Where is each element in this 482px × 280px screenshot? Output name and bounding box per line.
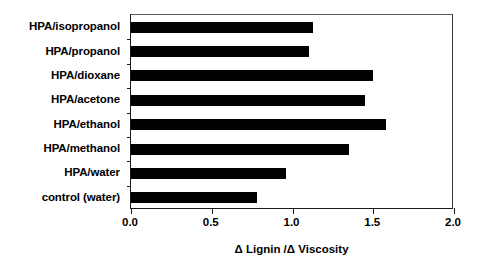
- bar: [131, 168, 286, 179]
- bar-slot: [131, 113, 454, 137]
- category-label: HPA/ethanol: [54, 118, 120, 130]
- y-axis-tick: [127, 88, 131, 89]
- bar: [131, 70, 373, 81]
- y-axis-tick: [127, 113, 131, 114]
- y-axis-tick: [127, 137, 131, 138]
- x-axis-tick-label: 0.5: [203, 216, 219, 228]
- bar-slot: [131, 161, 454, 185]
- category-label: HPA/dioxane: [51, 69, 120, 81]
- bar: [131, 95, 365, 106]
- plot-area: [130, 14, 453, 209]
- bar-slot: [131, 64, 454, 88]
- bar: [131, 22, 313, 33]
- category-label: HPA/water: [64, 166, 120, 178]
- category-label-row: HPA/propanol: [0, 38, 124, 62]
- bar: [131, 192, 257, 203]
- category-label: HPA/propanol: [45, 45, 120, 57]
- bar-slot: [131, 88, 454, 112]
- category-label: HPA/methanol: [43, 142, 120, 154]
- category-label: control (water): [42, 191, 120, 203]
- x-axis-tick-label: 2.0: [445, 216, 461, 228]
- x-axis-tick: [131, 208, 132, 214]
- bar-slot: [131, 15, 454, 39]
- bars-layer: [131, 15, 452, 208]
- x-axis-tick-label: 1.5: [364, 216, 380, 228]
- category-label-row: HPA/acetone: [0, 87, 124, 111]
- category-axis-labels: HPA/isopropanolHPA/propanolHPA/dioxaneHP…: [0, 14, 124, 209]
- y-axis-tick: [127, 161, 131, 162]
- bar: [131, 119, 386, 130]
- category-label-row: HPA/methanol: [0, 136, 124, 160]
- y-axis-tick: [127, 64, 131, 65]
- x-axis-tick-labels: 0.00.51.01.52.0: [130, 216, 453, 234]
- x-axis-tick: [212, 208, 213, 214]
- x-axis-tick: [293, 208, 294, 214]
- category-label: HPA/acetone: [51, 93, 120, 105]
- category-label-row: HPA/isopropanol: [0, 14, 124, 38]
- category-label: HPA/isopropanol: [29, 20, 120, 32]
- bar-slot: [131, 186, 454, 210]
- category-label-row: HPA/ethanol: [0, 112, 124, 136]
- bar-slot: [131, 39, 454, 63]
- y-axis-tick: [127, 186, 131, 187]
- bar: [131, 144, 349, 155]
- x-axis-tick: [373, 208, 374, 214]
- category-label-row: control (water): [0, 185, 124, 209]
- x-axis-title: Δ Lignin /Δ Viscosity: [130, 243, 453, 255]
- x-axis-tick-label: 1.0: [284, 216, 300, 228]
- x-axis-tick: [454, 208, 455, 214]
- bar: [131, 46, 309, 57]
- bar-slot: [131, 137, 454, 161]
- bar-chart-figure: HPA/isopropanolHPA/propanolHPA/dioxaneHP…: [0, 0, 482, 280]
- category-label-row: HPA/dioxane: [0, 63, 124, 87]
- category-label-row: HPA/water: [0, 160, 124, 184]
- y-axis-tick: [127, 39, 131, 40]
- x-axis-tick-label: 0.0: [122, 216, 138, 228]
